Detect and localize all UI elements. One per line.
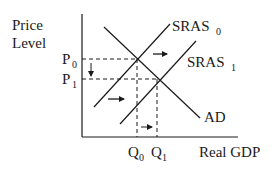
svg-text:0: 0	[216, 26, 221, 37]
ad-label: AD	[204, 109, 226, 125]
svg-text:Q: Q	[128, 144, 139, 160]
svg-text:P: P	[62, 51, 70, 67]
svg-text:1: 1	[72, 79, 77, 90]
svg-text:1: 1	[162, 152, 167, 163]
as-ad-diagram: Price Level P 0 P 1 Q 0 Q 1 Real GDP SRA…	[0, 0, 274, 171]
svg-text:0: 0	[139, 152, 144, 163]
svg-text:1: 1	[231, 62, 236, 73]
q1-label: Q 1	[151, 144, 167, 163]
ad-curve	[104, 27, 200, 118]
y-axis-label-line2: Level	[12, 35, 46, 51]
svg-text:Q: Q	[151, 144, 162, 160]
p1-label: P 1	[62, 71, 77, 90]
p0-label: P 0	[62, 51, 77, 70]
svg-text:SRAS: SRAS	[187, 54, 225, 70]
sras0-curve	[94, 24, 170, 107]
guide-lines	[82, 59, 157, 137]
shift-arrows	[91, 54, 167, 127]
curves	[94, 24, 200, 124]
svg-text:0: 0	[72, 59, 77, 70]
svg-text:SRAS: SRAS	[172, 18, 210, 34]
q0-label: Q 0	[128, 144, 144, 163]
x-axis-label: Real GDP	[199, 144, 260, 160]
sras0-label: SRAS 0	[172, 18, 221, 37]
svg-text:P: P	[62, 71, 70, 87]
y-axis-label-line1: Price	[12, 17, 43, 33]
sras1-label: SRAS 1	[187, 54, 236, 73]
